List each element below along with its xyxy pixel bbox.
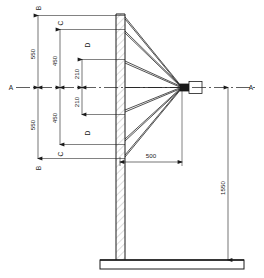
dimension-210-upper: 210 (73, 60, 82, 88)
base-plate (100, 260, 244, 269)
dimension-550-lower: 550 (29, 88, 38, 159)
stay-cables-upper (125, 17, 182, 88)
section-mark-a-right: A (249, 84, 254, 91)
section-mark-c-bottom: C (57, 151, 64, 156)
dimension-450-lower: 450 (51, 88, 60, 145)
section-mark-b-bottom: B (35, 165, 42, 170)
cable-upper-3b (125, 63, 182, 88)
stay-cables-lower (125, 87, 182, 157)
dim-label-500: 500 (146, 152, 157, 159)
cable-upper-1b (125, 19, 182, 88)
dim-label-1550: 1550 (219, 181, 226, 195)
centerline-a-a: A A (9, 84, 258, 91)
dimension-550-upper: 550 (29, 16, 38, 88)
cable-upper-2b (125, 33, 182, 88)
section-mark-c-top: C (57, 20, 64, 25)
cable-lower-2 (125, 88, 182, 141)
technical-drawing-canvas: A A 550 550 450 450 210 210 B B (0, 0, 264, 278)
cable-lower-1b (125, 87, 182, 155)
dim-label-210-lower: 210 (73, 96, 80, 107)
mast-hatch-fill (116, 14, 125, 260)
dim-label-450-upper: 450 (51, 55, 58, 66)
dim-label-210-upper: 210 (73, 68, 80, 79)
cable-upper-1 (125, 17, 182, 87)
dim-label-450-lower: 450 (51, 112, 58, 123)
mast-column (116, 14, 125, 260)
dim-label-550-lower: 550 (29, 119, 36, 130)
cable-lower-3 (125, 88, 182, 112)
dimension-450-upper: 450 (51, 30, 60, 88)
section-mark-d-top: D (84, 42, 91, 47)
cable-lower-2b (125, 87, 182, 139)
elevation-drawing: A A 550 550 450 450 210 210 B B (0, 0, 264, 278)
section-mark-a-left: A (9, 84, 14, 91)
section-mark-d-bottom: D (84, 130, 91, 135)
cable-upper-3 (125, 61, 182, 87)
cable-upper-2 (125, 31, 182, 87)
dimension-210-lower: 210 (73, 88, 82, 115)
extension-leaders (38, 16, 125, 159)
section-mark-b-top: B (35, 5, 42, 10)
dim-label-550-upper: 550 (29, 48, 36, 59)
dimension-1550-height: 1550 (219, 88, 228, 261)
base-plate-outline (100, 260, 244, 269)
